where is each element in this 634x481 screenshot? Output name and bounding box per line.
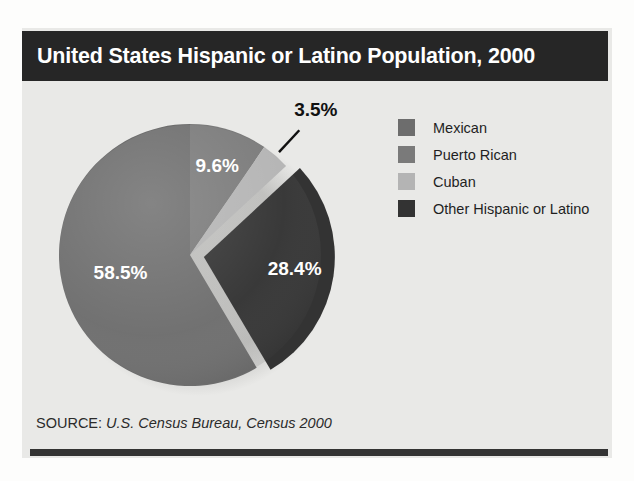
legend-item-2: Cuban	[398, 168, 608, 195]
slice-value-label: 28.4%	[268, 258, 322, 279]
legend-swatch-icon	[398, 146, 415, 163]
legend-swatch-icon	[398, 200, 415, 217]
legend-item-label: Puerto Rican	[415, 147, 517, 163]
legend-item-3: Other Hispanic or Latino	[398, 195, 608, 222]
source-value: U.S. Census Bureau, Census 2000	[102, 415, 332, 431]
slice-value-label: 3.5%	[294, 99, 337, 120]
legend-swatch-icon	[398, 119, 415, 136]
source-label: SOURCE:	[36, 415, 102, 431]
slice-value-label: 9.6%	[196, 155, 239, 176]
legend-item-1: Puerto Rican	[398, 141, 608, 168]
bottom-rule	[30, 449, 608, 456]
chart-title: United States Hispanic or Latino Populat…	[22, 44, 535, 69]
legend-item-label: Mexican	[415, 120, 487, 136]
pie-svg: 9.6%3.5%28.4%58.5%	[30, 92, 370, 412]
leader-line	[279, 130, 299, 152]
pie-chart: 9.6%3.5%28.4%58.5%	[30, 92, 370, 412]
pie-leader-lines	[279, 130, 299, 152]
legend-swatch-icon	[398, 173, 415, 190]
title-bar: United States Hispanic or Latino Populat…	[22, 31, 608, 81]
slice-value-label: 58.5%	[94, 262, 148, 283]
chart-figure: United States Hispanic or Latino Populat…	[0, 0, 634, 481]
legend-item-label: Cuban	[415, 174, 476, 190]
legend-item-0: Mexican	[398, 114, 608, 141]
source-note: SOURCE:U.S. Census Bureau, Census 2000	[36, 415, 332, 431]
legend: MexicanPuerto RicanCubanOther Hispanic o…	[398, 114, 608, 222]
legend-item-label: Other Hispanic or Latino	[415, 201, 589, 217]
